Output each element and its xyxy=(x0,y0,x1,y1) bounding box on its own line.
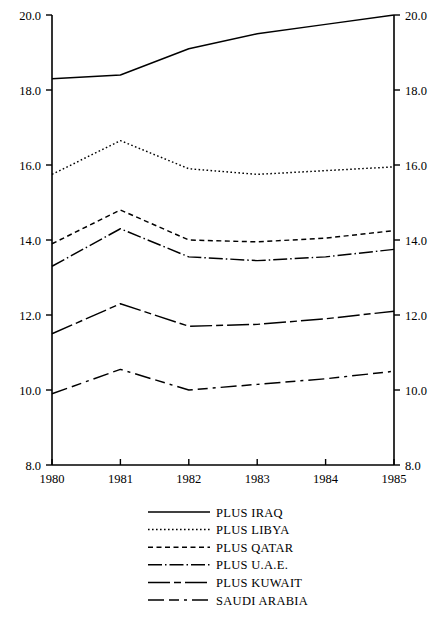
y-tick-label-right: 8.0 xyxy=(405,459,421,473)
y-tick-label-left: 20.0 xyxy=(19,9,41,23)
y-tick-label-left: 18.0 xyxy=(19,84,41,98)
series-line xyxy=(52,229,394,267)
y-tick-label-left: 8.0 xyxy=(25,459,41,473)
legend-label: PLUS QATAR xyxy=(216,541,294,555)
legend-label: PLUS KUWAIT xyxy=(216,576,302,590)
series-line xyxy=(52,210,394,244)
x-tick-label: 1980 xyxy=(40,472,65,486)
series-line xyxy=(52,369,394,393)
legend-label: SAUDI ARABIA xyxy=(216,594,308,608)
y-tick-label-right: 14.0 xyxy=(405,234,427,248)
y-tick-label-left: 14.0 xyxy=(19,234,41,248)
x-tick-label: 1982 xyxy=(176,472,201,486)
y-tick-label-left: 16.0 xyxy=(19,159,41,173)
x-tick-label: 1985 xyxy=(382,472,407,486)
x-tick-label: 1983 xyxy=(245,472,270,486)
y-tick-label-right: 18.0 xyxy=(405,84,427,98)
y-tick-label-right: 10.0 xyxy=(405,384,427,398)
series-line xyxy=(52,304,394,334)
y-tick-label-left: 10.0 xyxy=(19,384,41,398)
y-tick-label-right: 16.0 xyxy=(405,159,427,173)
legend-label: PLUS IRAQ xyxy=(216,506,283,520)
x-tick-label: 1981 xyxy=(108,472,133,486)
series-line xyxy=(52,141,394,175)
y-tick-label-right: 20.0 xyxy=(405,9,427,23)
x-tick-label: 1984 xyxy=(313,472,339,486)
legend-label: PLUS LIBYA xyxy=(216,523,290,537)
y-tick-label-right: 12.0 xyxy=(405,309,427,323)
series-line xyxy=(52,15,394,79)
chart-canvas: 8.08.010.010.012.012.014.014.016.016.018… xyxy=(0,0,445,620)
y-tick-label-left: 12.0 xyxy=(19,309,41,323)
legend-label: PLUS U.A.E. xyxy=(216,558,288,572)
line-chart: 8.08.010.010.012.012.014.014.016.016.018… xyxy=(0,0,445,620)
